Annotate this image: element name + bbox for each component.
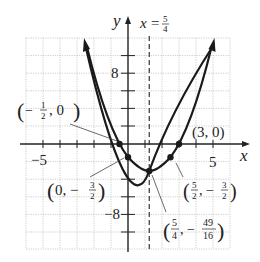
svg-text:): )	[73, 98, 80, 123]
svg-text:4: 4	[172, 230, 177, 241]
svg-text:2: 2	[192, 191, 197, 201]
svg-text:(: (	[47, 178, 54, 203]
svg-text:1: 1	[41, 100, 46, 110]
svg-text:−: −	[25, 103, 33, 118]
svg-text:3: 3	[90, 180, 95, 190]
svg-text:49: 49	[203, 217, 213, 228]
svg-text:=: =	[151, 15, 159, 31]
leader-lines	[70, 124, 183, 212]
svg-text:): )	[230, 180, 237, 203]
parabola-graph: y x x = 5 4 −5 5 8 −8 ( − 1 2 , 0 ) ( 0,…	[0, 0, 260, 262]
svg-text:, −: , −	[199, 183, 214, 198]
svg-text:5: 5	[192, 180, 197, 190]
svg-text:, 0: , 0	[49, 102, 64, 118]
svg-text:): )	[217, 218, 224, 243]
svg-text:0, −: 0, −	[55, 182, 78, 198]
svg-text:(: (	[17, 98, 24, 123]
point-x-intercept-right	[176, 141, 182, 147]
svg-text:): )	[98, 178, 105, 203]
svg-text:(: (	[163, 218, 170, 243]
svg-text:(: (	[183, 180, 190, 203]
y-axis-label: y	[111, 11, 121, 30]
tick-label-y-8: 8	[111, 65, 119, 81]
label-x-intercept-right: (3, 0)	[192, 124, 225, 141]
point-x-intercept-left	[116, 141, 122, 147]
x-axis-label: x	[239, 146, 248, 165]
tick-label-x-neg5: −5	[31, 152, 47, 168]
svg-text:x: x	[139, 15, 147, 31]
svg-text:5: 5	[163, 14, 168, 24]
svg-text:2: 2	[222, 191, 227, 201]
svg-text:2: 2	[41, 111, 46, 121]
svg-text:4: 4	[163, 24, 168, 34]
point-symmetric	[167, 154, 173, 160]
label-x-intercept-left: ( − 1 2 , 0 )	[17, 98, 80, 123]
tick-label-y-neg8: −8	[104, 206, 120, 222]
svg-text:2: 2	[90, 191, 95, 201]
point-vertex	[146, 168, 152, 174]
point-y-intercept	[125, 154, 131, 160]
left-arrow-icon	[83, 38, 90, 52]
svg-text:5: 5	[172, 217, 177, 228]
symmetry-label: x = 5 4	[139, 14, 169, 34]
svg-text:3: 3	[222, 180, 227, 190]
svg-text:, −: , −	[180, 222, 195, 237]
label-symmetric-point: ( 5 2 , − 3 2 )	[183, 180, 237, 203]
label-vertex: ( 5 4 , − 49 16 )	[163, 217, 224, 243]
y-axis-arrow-icon	[125, 16, 131, 24]
svg-text:16: 16	[203, 230, 213, 241]
label-y-intercept: ( 0, − 3 2 )	[47, 178, 105, 203]
tick-label-x-5: 5	[209, 154, 217, 170]
